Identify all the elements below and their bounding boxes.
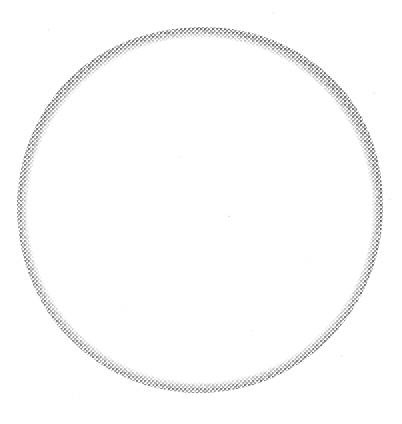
figure-canvas <box>0 0 402 424</box>
ring-band <box>0 0 402 424</box>
ring-svg <box>0 0 402 424</box>
ring-edge-feather <box>0 10 400 410</box>
ring-figure <box>0 0 402 424</box>
